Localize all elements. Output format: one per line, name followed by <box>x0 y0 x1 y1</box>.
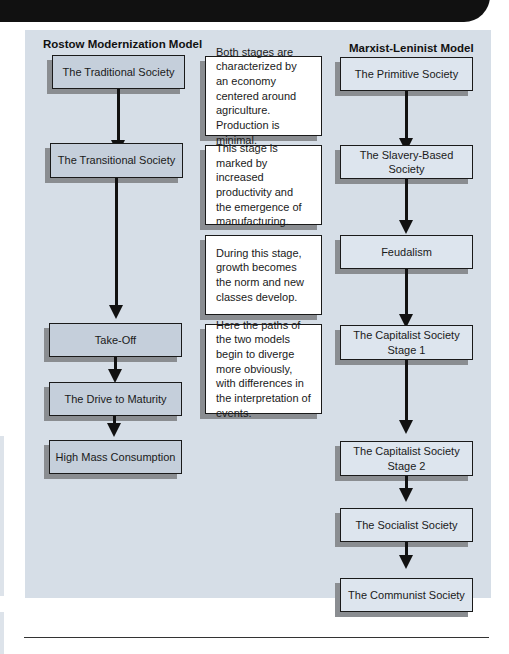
marxist-stage-capitalist-1: The Capitalist Society Stage 1 <box>340 325 473 360</box>
stage-label: The Capitalist Society <box>353 444 459 458</box>
arrow-shaft <box>405 91 408 143</box>
marxist-stage-primitive: The Primitive Society <box>340 57 473 91</box>
stage-label: High Mass Consumption <box>56 450 176 464</box>
note-divergence: Here the paths of the two models begin t… <box>205 324 322 414</box>
rostow-stage-high-mass-consumption: High Mass Consumption <box>49 440 182 474</box>
stage-label: The Socialist Society <box>355 518 457 532</box>
rostow-stage-transitional: The Transitional Society <box>50 143 183 178</box>
arrow-down-icon <box>109 305 123 319</box>
arrow-down-icon <box>107 423 121 437</box>
marxist-stage-feudalism: Feudalism <box>340 235 473 269</box>
note-growth: During this stage, growth becomes the no… <box>205 235 322 315</box>
left-edge-strip <box>0 436 4 596</box>
note-text: During this stage, growth becomes the no… <box>216 246 311 305</box>
left-edge-strip <box>0 612 4 654</box>
top-banner <box>0 0 490 22</box>
stage-label: The Capitalist Society <box>353 328 459 342</box>
rostow-stage-drive-to-maturity: The Drive to Maturity <box>49 382 182 416</box>
arrow-down-icon <box>399 420 413 434</box>
arrow-down-icon <box>108 369 122 383</box>
note-agriculture: Both stages are characterized by an econ… <box>205 56 322 136</box>
rostow-stage-traditional: The Traditional Society <box>52 55 185 89</box>
arrow-shaft <box>405 360 408 426</box>
rostow-stage-take-off: Take-Off <box>49 323 182 357</box>
marxist-stage-slavery: The Slavery-Based Society <box>340 145 473 179</box>
note-text: Here the paths of the two models begin t… <box>216 318 311 420</box>
marxist-stage-socialist: The Socialist Society <box>340 508 473 542</box>
stage-label: The Traditional Society <box>63 65 175 79</box>
stage-label: Feudalism <box>381 245 432 259</box>
arrow-down-icon <box>399 220 413 234</box>
note-manufacturing: This stage is marked by increased produc… <box>205 145 322 225</box>
stage-label: The Slavery-Based Society <box>341 148 472 177</box>
note-text: This stage is marked by increased produc… <box>216 141 311 229</box>
stage-label: The Primitive Society <box>355 67 458 81</box>
stage-label: The Drive to Maturity <box>64 392 166 406</box>
arrow-shaft <box>405 179 408 225</box>
arrow-shaft <box>115 178 118 308</box>
stage-label: Take-Off <box>95 333 136 347</box>
stage-sublabel: Stage 1 <box>388 343 426 357</box>
stage-label: The Communist Society <box>348 588 465 602</box>
arrow-down-icon <box>399 488 413 502</box>
arrow-down-icon <box>399 555 413 569</box>
marxist-stage-capitalist-2: The Capitalist Society Stage 2 <box>340 441 473 476</box>
marxist-stage-communist: The Communist Society <box>340 578 473 612</box>
stage-sublabel: Stage 2 <box>388 459 426 473</box>
arrow-shaft <box>117 89 120 141</box>
stage-label: The Transitional Society <box>58 153 175 167</box>
marxist-model-heading: Marxist-Leninist Model <box>349 42 474 54</box>
note-text: Both stages are characterized by an econ… <box>216 45 311 147</box>
bottom-rule <box>24 637 489 638</box>
rostow-model-heading: Rostow Modernization Model <box>43 38 202 50</box>
